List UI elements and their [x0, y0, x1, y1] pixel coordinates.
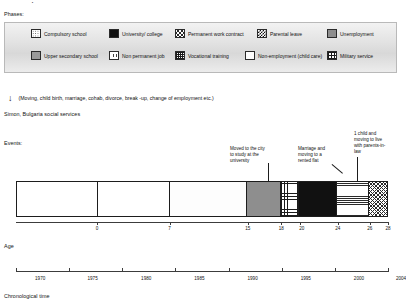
age-tick — [388, 222, 389, 225]
chrono-tick-label: 1980 — [141, 276, 151, 281]
legend-item-compulsory-school[interactable]: Compulsory school — [31, 29, 87, 38]
age-axis: 0 7 15 18 20 24 26 28 — [16, 222, 388, 236]
legend-swatch-upper-secondary-school-icon — [31, 51, 41, 60]
age-tick-label: 24 — [335, 226, 340, 231]
chrono-axis-line — [16, 271, 388, 272]
subject-label: Simon, Bulgaria social services — [4, 111, 80, 118]
legend-swatch-university-college-icon — [109, 29, 119, 38]
legend-item-military-service[interactable]: Military service — [327, 51, 373, 60]
event-annotation-child-parents-in-law: 1 child and moving to live with parents-… — [354, 131, 390, 155]
chrono-tick — [388, 268, 389, 271]
event-key: ↓ (Moving, child birth, marriage, cohab,… — [8, 95, 214, 102]
cropped-glyph: · — [31, 0, 41, 6]
legend-label: Compulsory school — [44, 31, 87, 37]
age-tick-label: 18 — [279, 226, 284, 231]
age-tick — [248, 222, 249, 225]
legend-swatch-permanent-work-contract-icon — [175, 29, 185, 38]
age-tick-label: 15 — [245, 226, 250, 231]
chronological-time-axis: 1970 1975 1980 1985 1990 1995 2000 2004 — [16, 271, 388, 287]
chrono-tick-label: 1990 — [247, 276, 257, 281]
bar-segment-compulsory-school-2 — [98, 182, 170, 216]
legend-item-vocational-training[interactable]: Vocational training — [175, 51, 229, 60]
bar-segment-compulsory-school-1 — [17, 182, 98, 216]
legend-item-university-college[interactable]: University/ college — [109, 29, 163, 38]
event-leader-line-marriage — [332, 164, 343, 174]
age-tick — [97, 222, 98, 225]
age-tick-label: 20 — [299, 226, 304, 231]
chrono-tick — [122, 268, 123, 271]
chrono-tick-label: 1975 — [88, 276, 98, 281]
chrono-tick — [229, 268, 230, 271]
bar-segment-unemployment — [247, 182, 280, 216]
life-course-sequence-bar — [16, 181, 388, 217]
event-leader-line-moved-to-city — [268, 163, 269, 181]
events-title: Events: — [4, 140, 22, 147]
chrono-tick — [175, 268, 176, 271]
chrono-tick — [16, 268, 17, 271]
age-axis-label: Age — [4, 243, 14, 250]
down-arrow-icon: ↓ — [8, 95, 13, 102]
chrono-tick-label: 1995 — [301, 276, 311, 281]
legend-label: Parental leave — [270, 31, 302, 37]
legend-swatch-non-permanent-job-icon — [109, 51, 119, 60]
legend-item-unemployment[interactable]: Unemployment — [327, 29, 374, 38]
chrono-tick — [335, 268, 336, 271]
chrono-tick-label: 1970 — [35, 276, 45, 281]
chrono-tick — [69, 268, 70, 271]
event-annotation-marriage: Marriage and moving to a rented flat — [298, 146, 332, 164]
legend-label: Non permanent job — [122, 53, 165, 59]
cropped-figure-fragment: · — [31, 0, 41, 6]
event-key-text: (Moving, child birth, marriage, cohab, d… — [19, 95, 214, 101]
legend-swatch-parental-leave-icon — [257, 29, 267, 38]
age-tick — [170, 222, 171, 225]
chrono-tick — [282, 268, 283, 271]
legend-row-2: Upper secondary school Non permanent job… — [5, 51, 396, 65]
chrono-tick-label: 2000 — [354, 276, 364, 281]
age-tick — [300, 222, 301, 225]
legend-swatch-vocational-training-icon — [175, 51, 185, 60]
age-tick-label: 28 — [385, 226, 390, 231]
legend-label: Vocational training — [188, 53, 229, 59]
age-tick-label: 26 — [367, 226, 372, 231]
legend-item-upper-secondary-school[interactable]: Upper secondary school — [31, 51, 98, 60]
bar-segment-permanent-work-contract — [369, 182, 387, 216]
legend-label: Military service — [340, 53, 373, 59]
bar-segment-military-service — [281, 182, 300, 216]
age-tick — [281, 222, 282, 225]
legend-label: Non-employment (child care) — [258, 53, 322, 59]
legend-item-non-employment-child-care[interactable]: Non-employment (child care) — [245, 51, 322, 60]
age-axis-line — [16, 222, 388, 223]
legend-row-1: Compulsory school University/ college Pe… — [5, 29, 396, 43]
chronological-axis-label: Chronological time — [4, 293, 50, 300]
phases-legend-box: Compulsory school University/ college Pe… — [4, 22, 397, 73]
legend-label: Permanent work contract — [188, 31, 244, 37]
legend-label: University/ college — [122, 31, 163, 37]
event-leader-line-child-parents-in-law — [357, 157, 358, 181]
event-annotation-moved-to-city: Moved to the city to study at the univer… — [230, 146, 266, 164]
legend-item-non-permanent-job[interactable]: Non permanent job — [109, 51, 165, 60]
legend-item-parental-leave[interactable]: Parental leave — [257, 29, 302, 38]
legend-item-permanent-work-contract[interactable]: Permanent work contract — [175, 29, 244, 38]
age-tick — [338, 222, 339, 225]
chrono-tick-label: 1985 — [194, 276, 204, 281]
bar-segment-non-permanent-job — [337, 182, 369, 216]
age-tick-label: 7 — [168, 226, 171, 231]
chrono-tick-label: 2004 — [396, 276, 406, 281]
legend-swatch-unemployment-icon — [327, 29, 337, 38]
bar-segment-university-college — [299, 182, 337, 216]
age-tick-label: 0 — [96, 226, 99, 231]
legend-label: Upper secondary school — [44, 53, 98, 59]
bar-segment-upper-secondary-school — [170, 182, 248, 216]
legend-swatch-compulsory-school-icon — [31, 29, 41, 38]
legend-swatch-military-service-icon — [327, 51, 337, 60]
age-tick — [370, 222, 371, 225]
phases-title: Phases: — [4, 11, 24, 18]
legend-label: Unemployment — [340, 31, 374, 37]
legend-swatch-non-employment-child-care-icon — [245, 51, 255, 60]
